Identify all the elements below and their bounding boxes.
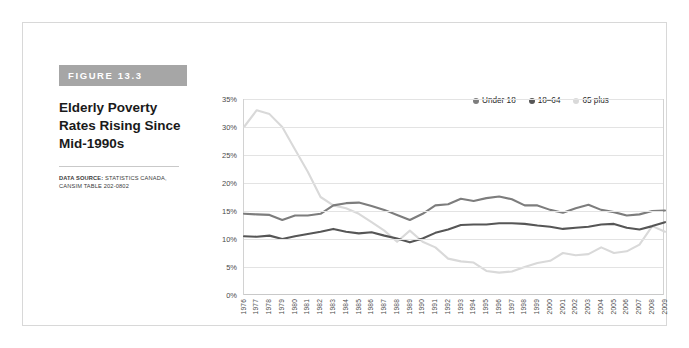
figure-page: FIGURE 13.3 Elderly Poverty Rates Rising… [0, 0, 689, 348]
x-tick-1994: 1994 [469, 299, 476, 314]
chart-series-lines [244, 99, 665, 295]
x-tick-1979: 1979 [278, 299, 285, 314]
figure-caption-column: FIGURE 13.3 Elderly Poverty Rates Rising… [59, 65, 187, 191]
y-tick-25%: 25% [222, 151, 237, 160]
x-tick-2009: 2009 [661, 299, 668, 314]
x-tick-1996: 1996 [495, 299, 502, 314]
y-tick-35%: 35% [222, 95, 237, 104]
gridline-30% [244, 127, 663, 128]
data-source-label: DATA SOURCE: [59, 175, 103, 181]
x-tick-2003: 2003 [584, 299, 591, 314]
x-tick-1982: 1982 [316, 299, 323, 314]
figure-title: Elderly Poverty Rates Rising Since Mid-1… [59, 99, 185, 154]
x-tick-1981: 1981 [303, 299, 310, 314]
series-line-65-plus [244, 110, 665, 272]
y-tick-5%: 5% [226, 263, 237, 272]
x-tick-1990: 1990 [418, 299, 425, 314]
x-tick-1980: 1980 [291, 299, 298, 314]
x-tick-1998: 1998 [520, 299, 527, 314]
x-tick-1984: 1984 [342, 299, 349, 314]
x-axis-labels: 1976197719781979198019811982198319841985… [243, 299, 664, 341]
y-tick-0%: 0% [226, 291, 237, 300]
series-line-under-18 [244, 196, 665, 220]
y-tick-15%: 15% [222, 207, 237, 216]
caption-divider [59, 166, 179, 167]
x-tick-1978: 1978 [265, 299, 272, 314]
x-tick-2007: 2007 [635, 299, 642, 314]
x-tick-2004: 2004 [597, 299, 604, 314]
chart-container: Under 18 18–64 65 plus 0%5%10%15%20%25%3… [205, 91, 683, 336]
y-tick-30%: 30% [222, 123, 237, 132]
gridline-20% [244, 183, 663, 184]
x-tick-1992: 1992 [444, 299, 451, 314]
figure-frame: FIGURE 13.3 Elderly Poverty Rates Rising… [22, 22, 667, 326]
plot-area [243, 99, 664, 295]
gridline-10% [244, 239, 663, 240]
x-tick-1977: 1977 [252, 299, 259, 314]
x-tick-2005: 2005 [610, 299, 617, 314]
x-tick-1985: 1985 [355, 299, 362, 314]
x-tick-1986: 1986 [367, 299, 374, 314]
figure-number-label: FIGURE 13.3 [59, 70, 143, 81]
x-tick-2001: 2001 [559, 299, 566, 314]
x-tick-2002: 2002 [571, 299, 578, 314]
x-tick-1997: 1997 [508, 299, 515, 314]
y-tick-10%: 10% [222, 235, 237, 244]
x-tick-1999: 1999 [533, 299, 540, 314]
x-tick-1983: 1983 [329, 299, 336, 314]
x-tick-1989: 1989 [406, 299, 413, 314]
gridline-25% [244, 155, 663, 156]
x-tick-1987: 1987 [380, 299, 387, 314]
y-axis-labels: 0%5%10%15%20%25%30%35% [205, 91, 241, 303]
gridline-5% [244, 267, 663, 268]
x-tick-2008: 2008 [648, 299, 655, 314]
x-tick-1993: 1993 [457, 299, 464, 314]
data-source-note: DATA SOURCE: STATISTICS CANADA, CANSIM T… [59, 174, 183, 192]
figure-number-banner: FIGURE 13.3 [59, 65, 187, 86]
gridline-35% [244, 99, 663, 100]
x-tick-1991: 1991 [431, 299, 438, 314]
x-tick-1988: 1988 [393, 299, 400, 314]
gridline-15% [244, 211, 663, 212]
x-tick-2006: 2006 [622, 299, 629, 314]
y-tick-20%: 20% [222, 179, 237, 188]
x-tick-2000: 2000 [546, 299, 553, 314]
x-tick-1976: 1976 [240, 299, 247, 314]
x-tick-1995: 1995 [482, 299, 489, 314]
